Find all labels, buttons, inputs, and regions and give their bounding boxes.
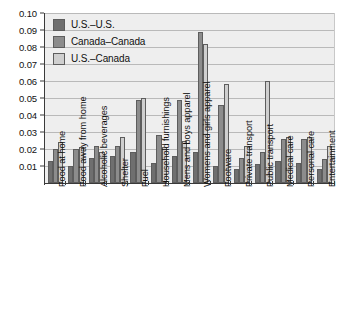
x-axis-tick-label: Fuel <box>141 169 150 187</box>
chart-legend: U.S.–U.S. Canada–Canada U.S.–Canada <box>53 18 145 65</box>
x-axis-tick-mark <box>272 181 273 185</box>
x-axis-tick-mark <box>293 181 294 185</box>
x-axis-tick-label: Public transport <box>266 124 275 187</box>
x-axis-tick-label: Shelter <box>121 158 130 187</box>
legend-label: U.S.–U.S. <box>71 19 115 30</box>
x-axis-tick-mark <box>334 181 335 185</box>
x-axis-tick-mark <box>85 181 86 185</box>
y-axis-tick-label: 0.05 <box>19 93 37 104</box>
y-axis-tick-label: 0.06 <box>19 76 37 87</box>
y-axis: 0.100.090.080.070.060.050.040.030.020.01 <box>0 13 44 183</box>
x-axis-tick-mark <box>127 181 128 185</box>
x-axis-labels: Food at homeFood away from homeAlcoholic… <box>44 185 334 331</box>
legend-label: U.S.–Canada <box>71 53 130 64</box>
legend-item-us-canada: U.S.–Canada <box>53 52 145 65</box>
x-axis-tick-label: Footware <box>224 149 233 187</box>
y-axis-tick-label: 0.01 <box>19 161 37 172</box>
x-axis-tick-label: Household furnishings <box>162 97 171 187</box>
y-axis-tick-label: 0.07 <box>19 59 37 70</box>
legend-label: Canada–Canada <box>71 36 145 47</box>
legend-item-us-us: U.S.–U.S. <box>53 18 145 31</box>
legend-swatch-icon <box>53 53 65 65</box>
x-axis-tick-label: Private transport <box>245 120 254 187</box>
x-axis-tick-mark <box>313 181 314 185</box>
x-axis-tick-mark <box>44 181 45 185</box>
x-axis-tick-label: Entertainment <box>328 130 337 187</box>
x-axis-tick-mark <box>251 181 252 185</box>
x-axis-tick-mark <box>210 181 211 185</box>
x-axis-tick-mark <box>65 181 66 185</box>
y-axis-tick-label: 0.03 <box>19 127 37 138</box>
x-axis-tick-mark <box>189 181 190 185</box>
bar-chart: 0.100.090.080.070.060.050.040.030.020.01… <box>0 0 344 331</box>
legend-item-canada-canada: Canada–Canada <box>53 35 145 48</box>
y-axis-tick-label: 0.08 <box>19 42 37 53</box>
x-axis-tick-label: Womens and girls apparel <box>203 82 212 187</box>
legend-swatch-icon <box>53 19 65 31</box>
x-axis-tick-label: Mens and boys apparel <box>183 92 192 187</box>
x-axis-tick-mark <box>230 181 231 185</box>
x-axis-tick-label: Alcoholic beverages <box>100 106 109 187</box>
x-axis-tick-label: Personal care <box>307 131 316 187</box>
x-axis-tick-label: Food away from home <box>79 96 88 187</box>
y-axis-tick-label: 0.02 <box>19 144 37 155</box>
x-axis-tick-mark <box>148 181 149 185</box>
x-axis-tick-mark <box>168 181 169 185</box>
y-axis-tick-label: 0.10 <box>19 8 37 19</box>
y-axis-tick-label: 0.04 <box>19 110 37 121</box>
legend-swatch-icon <box>53 36 65 48</box>
y-axis-tick-label: 0.09 <box>19 25 37 36</box>
x-axis-tick-label: Food at home <box>58 131 67 187</box>
x-axis-tick-mark <box>106 181 107 185</box>
x-axis-tick-label: Medical care <box>286 135 295 187</box>
